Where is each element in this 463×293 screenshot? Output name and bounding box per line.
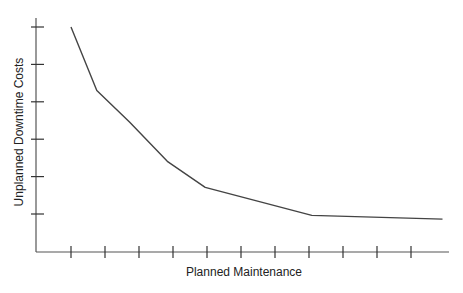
x-axis-label: Planned Maintenance bbox=[186, 265, 302, 279]
y-axis bbox=[31, 18, 44, 252]
y-axis-label: Unplanned Downtime Costs bbox=[12, 58, 26, 207]
cost-curve bbox=[71, 27, 443, 219]
x-axis bbox=[36, 246, 449, 258]
chart: Planned Maintenance Unplanned Downtime C… bbox=[0, 0, 463, 293]
